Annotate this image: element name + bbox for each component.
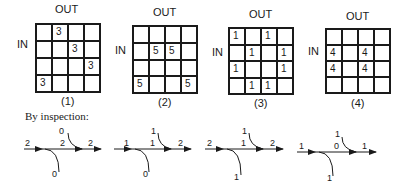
flow-bottom-label: 0: [143, 169, 148, 179]
flow-bottom-label: 1: [234, 172, 239, 182]
flow-out-label: 1: [362, 141, 367, 151]
flow-top-label: 1: [151, 126, 156, 136]
flow-middle-label: 0: [334, 141, 339, 151]
flow-middle-label: 2: [60, 138, 65, 148]
flow-out-label: 2: [270, 138, 275, 148]
flow-out-label: 2: [88, 138, 93, 148]
flow-bottom-label: 1: [327, 173, 332, 183]
flow-top-label: 1: [242, 126, 247, 136]
flow-diagram-2: 1 1 2 1 0: [114, 126, 191, 179]
flow-out-label: 2: [178, 138, 183, 148]
flow-diagram-3: 2 1 2 1 1: [205, 126, 283, 182]
flow-diagram-1: 2 2 2 0 0: [24, 126, 101, 179]
flow-in-label: 1: [124, 138, 129, 148]
flow-middle-label: 1: [150, 138, 155, 148]
flow-diagram-4: 1 0 1 1 1: [297, 129, 376, 183]
flow-in-label: 2: [207, 138, 212, 148]
flow-bottom-label: 0: [52, 169, 57, 179]
flow-diagrams: 2 2 2 0 0 1 1 2 1 0 2 1 2 1 1 1: [0, 0, 410, 187]
flow-in-label: 2: [25, 138, 30, 148]
flow-top-label: 0: [59, 126, 64, 136]
flow-middle-label: 1: [241, 138, 246, 148]
flow-top-label: 1: [335, 129, 340, 139]
flow-in-label: 1: [299, 141, 304, 151]
